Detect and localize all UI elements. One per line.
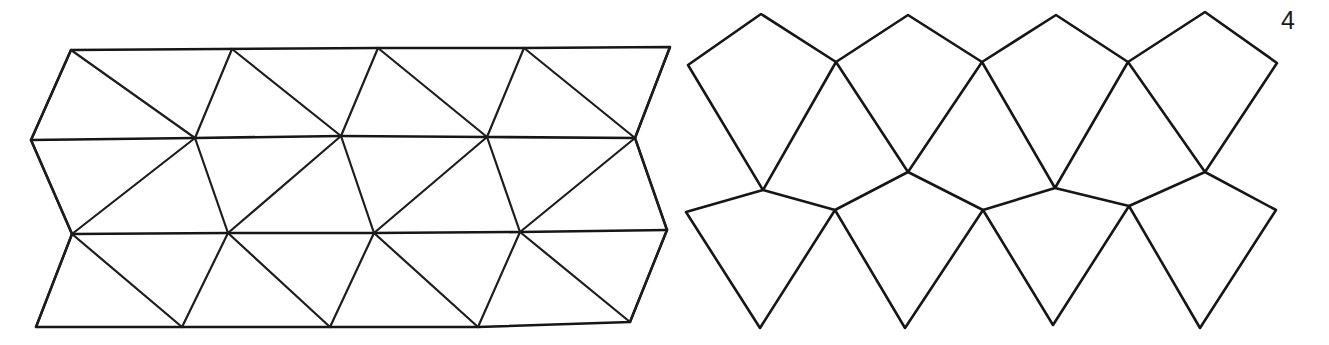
figure-page: 4 [0, 0, 1329, 345]
figure-number-label: 4 [1281, 8, 1295, 33]
polyhedron-nets-drawing [0, 0, 1329, 345]
left-net-triangulated [31, 47, 670, 327]
